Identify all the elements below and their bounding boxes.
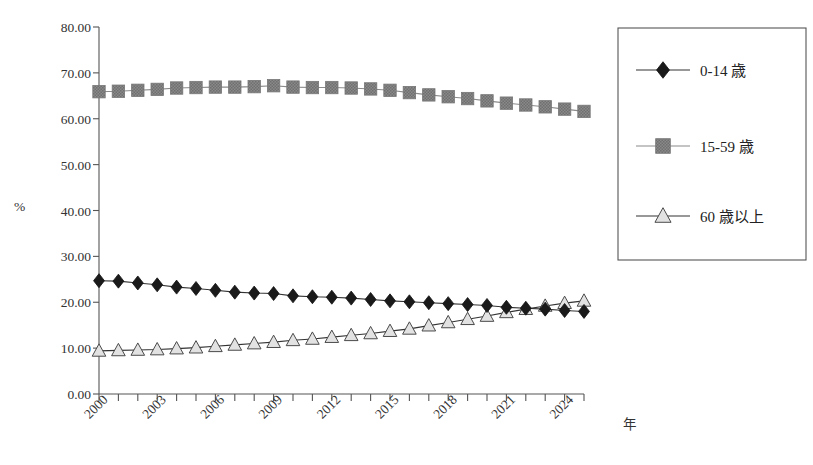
x-tick-label: 2009 — [256, 392, 286, 422]
marker-square — [520, 99, 532, 111]
marker-square — [209, 81, 221, 93]
x-axis-title: 年 — [623, 417, 636, 432]
x-tick-label: 2003 — [139, 392, 169, 422]
x-tick-label: 2012 — [314, 392, 344, 422]
y-tick-label: 50.00 — [61, 158, 92, 173]
y-axis-tick-labels: 0.0010.0020.0030.0040.0050.0060.0070.008… — [61, 20, 92, 402]
marker-triangle — [150, 342, 164, 354]
marker-square — [656, 139, 671, 154]
marker-square — [132, 84, 144, 96]
marker-square — [326, 81, 338, 93]
marker-square — [287, 81, 299, 93]
marker-diamond — [307, 290, 318, 304]
marker-diamond — [540, 302, 551, 316]
marker-square — [93, 85, 105, 97]
y-tick-label: 30.00 — [61, 249, 92, 264]
marker-diamond — [326, 290, 337, 304]
marker-diamond — [288, 289, 299, 303]
y-tick-label: 40.00 — [61, 204, 92, 219]
marker-square — [306, 81, 318, 93]
marker-square — [151, 83, 163, 95]
series-square — [93, 80, 590, 118]
series-triangle — [92, 294, 591, 356]
marker-square — [229, 81, 241, 93]
marker-triangle — [112, 343, 126, 355]
marker-diamond — [132, 276, 143, 290]
legend-label: 0-14 歳 — [700, 63, 746, 79]
marker-diamond — [229, 285, 240, 299]
marker-diamond — [365, 292, 376, 306]
marker-triangle — [170, 342, 184, 354]
marker-square — [248, 80, 260, 92]
x-tick-label: 2006 — [197, 392, 227, 422]
marker-diamond — [482, 298, 493, 312]
y-tick-label: 10.00 — [61, 341, 92, 356]
y-tick-label: 70.00 — [61, 66, 92, 81]
marker-diamond — [404, 295, 415, 309]
marker-diamond — [210, 283, 221, 297]
x-tick-label: 2015 — [372, 392, 402, 422]
x-tick-label: 2024 — [547, 392, 577, 422]
marker-square — [345, 82, 357, 94]
marker-diamond — [385, 294, 396, 308]
marker-triangle — [131, 343, 145, 355]
marker-square — [423, 89, 435, 101]
marker-diamond — [191, 281, 202, 295]
marker-diamond — [152, 278, 163, 292]
y-tick-label: 0.00 — [67, 387, 91, 402]
series-diamond — [94, 274, 590, 319]
marker-square — [481, 95, 493, 107]
marker-diamond — [268, 287, 279, 301]
marker-triangle — [92, 344, 106, 356]
marker-diamond — [423, 296, 434, 310]
marker-diamond — [94, 274, 105, 288]
marker-square — [500, 97, 512, 109]
marker-square — [170, 82, 182, 94]
marker-square — [267, 80, 279, 92]
marker-square — [403, 86, 415, 98]
y-axis-title: % — [14, 199, 25, 214]
marker-square — [190, 81, 202, 93]
series-layer — [92, 80, 591, 357]
y-tick-label: 60.00 — [61, 112, 92, 127]
y-tick-label: 80.00 — [61, 20, 92, 35]
marker-square — [578, 105, 590, 117]
marker-square — [384, 84, 396, 96]
marker-diamond — [346, 291, 357, 305]
marker-square — [112, 85, 124, 97]
x-axis-tick-labels: 200020032006200920122015201820212024 — [81, 392, 576, 422]
marker-square — [364, 83, 376, 95]
chart-canvas: 0.0010.0020.0030.0040.0050.0060.0070.008… — [0, 0, 813, 465]
x-tick-label: 2018 — [430, 392, 460, 422]
marker-square — [461, 92, 473, 104]
marker-diamond — [113, 274, 124, 288]
x-tick-label: 2021 — [488, 392, 518, 422]
marker-square — [539, 101, 551, 113]
marker-diamond — [249, 286, 260, 300]
marker-diamond — [171, 280, 182, 294]
y-tick-label: 20.00 — [61, 295, 92, 310]
age-distribution-line-chart: 0.0010.0020.0030.0040.0050.0060.0070.008… — [0, 0, 813, 465]
legend-label: 60 歳以上 — [700, 209, 764, 225]
y-axis-tick-marks — [93, 27, 99, 394]
marker-diamond — [462, 298, 473, 312]
marker-square — [558, 103, 570, 115]
marker-diamond — [443, 297, 454, 311]
marker-square — [442, 91, 454, 103]
legend-label: 15-59 歳 — [700, 139, 754, 155]
